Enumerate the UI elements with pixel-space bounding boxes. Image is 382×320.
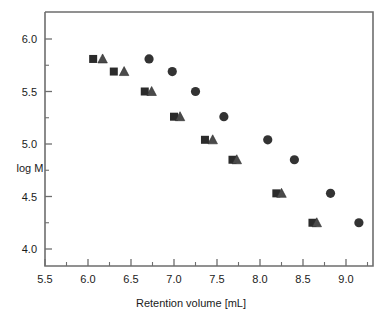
x-tick-label: 7.5 — [209, 273, 224, 285]
y-tick-label: 6.0 — [22, 33, 37, 45]
y-axis-title: log M — [17, 162, 44, 174]
x-tick-label: 8.0 — [252, 273, 267, 285]
x-tick-label: 6.5 — [123, 273, 138, 285]
y-axis-ticks — [45, 39, 52, 249]
x-axis-title: Retention volume [mL] — [136, 297, 246, 309]
y-axis-tick-labels: 4.04.55.05.56.0 — [22, 33, 37, 255]
plot-frame — [45, 12, 373, 266]
data-point-circle — [354, 218, 363, 227]
data-point-circle — [326, 189, 335, 198]
y-tick-label: 4.0 — [22, 243, 37, 255]
data-point-square — [89, 55, 97, 63]
x-tick-label: 9.0 — [338, 273, 353, 285]
data-markers — [89, 54, 363, 227]
data-point-circle — [219, 112, 228, 121]
data-point-square — [201, 136, 209, 144]
y-tick-label: 5.0 — [22, 138, 37, 150]
y-tick-label: 5.5 — [22, 86, 37, 98]
x-axis-ticks — [45, 259, 368, 266]
chart-root: 5.56.06.57.07.58.08.59.0 4.04.55.05.56.0… — [0, 0, 382, 320]
x-tick-label: 5.5 — [37, 273, 52, 285]
scatter-plot: 5.56.06.57.07.58.08.59.0 4.04.55.05.56.0… — [0, 0, 382, 320]
plot-border — [45, 12, 373, 266]
data-point-square — [110, 68, 118, 76]
x-tick-label: 7.0 — [166, 273, 181, 285]
data-point-triangle — [119, 67, 128, 76]
x-axis-tick-labels: 5.56.06.57.07.58.08.59.0 — [37, 273, 353, 285]
data-point-circle — [168, 67, 177, 76]
y-tick-label: 4.5 — [22, 191, 37, 203]
data-point-circle — [290, 155, 299, 164]
data-point-triangle — [208, 135, 218, 144]
x-tick-label: 8.5 — [295, 273, 310, 285]
data-point-circle — [144, 54, 153, 63]
data-point-circle — [263, 135, 272, 144]
x-tick-label: 6.0 — [80, 273, 95, 285]
data-point-triangle — [98, 54, 108, 63]
data-point-circle — [191, 87, 200, 96]
